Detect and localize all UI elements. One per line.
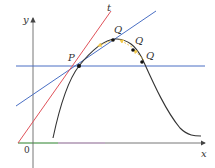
point-q bbox=[131, 48, 135, 52]
curve bbox=[53, 39, 201, 138]
y-axis-label: y bbox=[22, 14, 29, 25]
tangent-secant-diagram: y x 0 P Q Q Q t bbox=[0, 0, 215, 168]
tangent-line bbox=[18, 11, 111, 143]
point-q bbox=[111, 38, 115, 42]
point-p-label: P bbox=[67, 52, 75, 63]
point-q bbox=[140, 60, 144, 64]
point-p bbox=[77, 64, 81, 68]
point-q-label: Q bbox=[135, 35, 143, 46]
origin-label: 0 bbox=[24, 145, 30, 155]
point-q-label: Q bbox=[114, 24, 122, 35]
x-axis-label: x bbox=[201, 148, 207, 159]
point-q-label: Q bbox=[146, 50, 154, 61]
